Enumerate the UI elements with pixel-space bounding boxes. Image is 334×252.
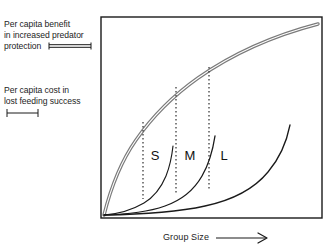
cost-curve-large	[104, 125, 290, 215]
plot-frame	[101, 17, 322, 218]
figure-container: Per capita benefit in increased predator…	[0, 0, 334, 252]
benefit-curve-outer	[104, 24, 318, 215]
benefit-curve-inner-gap	[104, 24, 318, 215]
cost-curve-medium	[104, 136, 215, 215]
x-axis-title: Group Size	[163, 232, 209, 242]
right-arrow-icon	[216, 233, 267, 243]
curve-label-s: S	[151, 148, 160, 163]
curve-label-m: M	[185, 148, 196, 163]
curve-label-l: L	[220, 148, 227, 163]
plot-svg: S M L	[0, 0, 334, 252]
